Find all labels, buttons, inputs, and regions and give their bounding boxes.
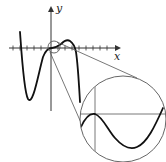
x-axis: x: [9, 46, 121, 64]
x-axis-label: x: [114, 50, 121, 63]
y-axis-label: y: [55, 2, 63, 15]
magnified-inset: [80, 76, 166, 162]
polynomial-diagram: x y: [0, 0, 166, 162]
y-axis: y: [51, 2, 63, 111]
